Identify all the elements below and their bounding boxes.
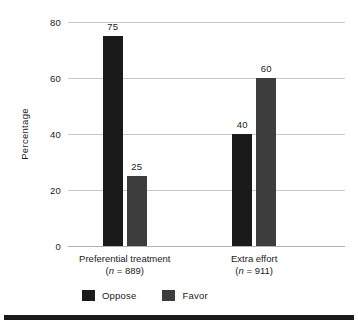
category-label-name: Preferential treatment bbox=[79, 253, 170, 264]
bottom-divider-rule bbox=[4, 315, 354, 320]
y-tick-label-0: 0 bbox=[56, 241, 61, 252]
legend-item-oppose[interactable]: Oppose bbox=[82, 290, 136, 301]
bar-rect bbox=[127, 176, 147, 246]
category-label-n: (n = 911) bbox=[231, 265, 277, 277]
category-label-n: (n = 889) bbox=[79, 265, 170, 277]
legend-swatch-oppose bbox=[82, 290, 95, 301]
bar-favor-0[interactable]: 25 bbox=[127, 22, 147, 246]
bar-oppose-0[interactable]: 75 bbox=[103, 22, 123, 246]
y-tick-label-40: 40 bbox=[50, 129, 61, 140]
bar-chart-figure: Percentage 020406080 75254060 Preferenti… bbox=[0, 0, 358, 326]
bar-oppose-1[interactable]: 40 bbox=[232, 22, 252, 246]
gridline-0: 0 bbox=[68, 246, 345, 247]
y-tick-label-80: 80 bbox=[50, 17, 61, 28]
category-label-0: Preferential treatment(n = 889) bbox=[79, 253, 170, 277]
bar-value-label: 25 bbox=[131, 161, 142, 172]
legend-label: Favor bbox=[182, 290, 207, 301]
legend-swatch-favor bbox=[162, 290, 175, 301]
legend-item-favor[interactable]: Favor bbox=[162, 290, 207, 301]
bar-value-label: 40 bbox=[237, 119, 248, 130]
legend-label: Oppose bbox=[102, 290, 136, 301]
category-label-name: Extra effort bbox=[231, 253, 277, 264]
bar-value-label: 75 bbox=[107, 21, 118, 32]
category-label-1: Extra effort(n = 911) bbox=[231, 253, 277, 277]
bar-favor-1[interactable]: 60 bbox=[256, 22, 276, 246]
y-tick-label-20: 20 bbox=[50, 185, 61, 196]
bar-value-label: 60 bbox=[261, 63, 272, 74]
bar-rect bbox=[232, 134, 252, 246]
plot-area: 020406080 75254060 Preferential treatmen… bbox=[68, 22, 345, 246]
chart-legend: OpposeFavor bbox=[82, 290, 208, 301]
y-axis-title: Percentage bbox=[19, 108, 30, 160]
y-tick-label-60: 60 bbox=[50, 73, 61, 84]
bar-rect bbox=[103, 36, 123, 246]
bar-rect bbox=[256, 78, 276, 246]
